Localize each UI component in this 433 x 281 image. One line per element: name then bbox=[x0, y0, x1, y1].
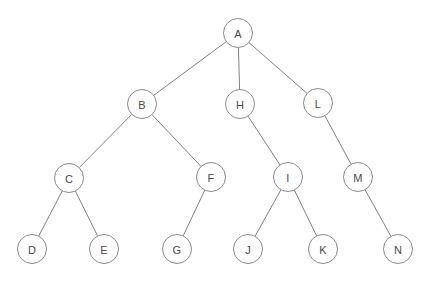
tree-node-label-l: L bbox=[315, 98, 321, 110]
tree-node-l[interactable]: L bbox=[304, 89, 333, 118]
tree-edge-i-k bbox=[294, 190, 316, 236]
tree-edge-b-f bbox=[152, 115, 201, 167]
tree-node-label-e: E bbox=[100, 244, 108, 256]
tree-edge-i-j bbox=[255, 190, 281, 237]
tree-node-label-j: J bbox=[245, 244, 251, 256]
tree-node-d[interactable]: D bbox=[18, 235, 47, 264]
tree-node-label-d: D bbox=[28, 244, 36, 256]
tree-diagram: ABHLCFIMDEGJKN bbox=[0, 0, 433, 281]
tree-node-n[interactable]: N bbox=[384, 235, 413, 264]
tree-node-k[interactable]: K bbox=[309, 235, 338, 264]
tree-node-a[interactable]: A bbox=[224, 19, 253, 48]
nodes-layer: ABHLCFIMDEGJKN bbox=[18, 19, 413, 264]
tree-edge-a-b bbox=[154, 42, 227, 96]
tree-edge-m-n bbox=[365, 190, 391, 237]
tree-node-i[interactable]: I bbox=[274, 163, 303, 192]
tree-node-label-g: G bbox=[173, 244, 182, 256]
tree-node-label-i: I bbox=[286, 172, 289, 184]
tree-edge-a-h bbox=[238, 47, 239, 89]
tree-node-h[interactable]: H bbox=[226, 90, 255, 119]
tree-node-label-b: B bbox=[138, 99, 146, 111]
tree-diagram-canvas: ABHLCFIMDEGJKN bbox=[0, 0, 433, 281]
tree-node-label-m: M bbox=[353, 172, 362, 184]
edges-layer bbox=[39, 42, 391, 237]
tree-node-j[interactable]: J bbox=[234, 235, 263, 264]
tree-node-g[interactable]: G bbox=[163, 235, 192, 264]
tree-node-label-f: F bbox=[208, 172, 215, 184]
tree-edge-c-d bbox=[39, 191, 63, 236]
tree-edge-b-c bbox=[79, 114, 132, 167]
tree-edge-h-i bbox=[248, 116, 280, 165]
tree-edge-l-m bbox=[325, 116, 351, 164]
tree-node-label-a: A bbox=[234, 28, 242, 40]
tree-edge-a-l bbox=[249, 43, 307, 94]
tree-node-label-k: K bbox=[319, 244, 327, 256]
tree-edge-c-e bbox=[75, 191, 97, 236]
tree-edge-f-g bbox=[183, 190, 205, 236]
tree-node-label-c: C bbox=[65, 173, 73, 185]
tree-node-f[interactable]: F bbox=[197, 163, 226, 192]
tree-node-e[interactable]: E bbox=[90, 235, 119, 264]
tree-node-m[interactable]: M bbox=[344, 163, 373, 192]
tree-node-label-h: H bbox=[236, 99, 244, 111]
tree-node-c[interactable]: C bbox=[55, 164, 84, 193]
tree-node-b[interactable]: B bbox=[128, 90, 157, 119]
tree-node-label-n: N bbox=[394, 244, 402, 256]
